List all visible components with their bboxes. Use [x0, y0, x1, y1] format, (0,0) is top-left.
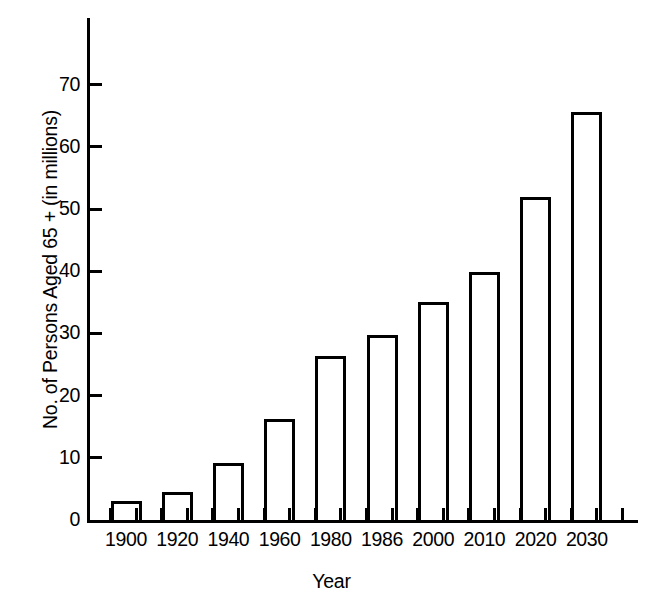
x-tick-mark: [570, 508, 573, 520]
x-tick-mark: [621, 508, 624, 520]
y-tick-mark: [90, 394, 102, 397]
bar: [315, 356, 346, 520]
bar: [264, 419, 295, 520]
y-tick-label: 50: [34, 199, 80, 219]
bar-chart: No. of Persons Aged 65 + (in millions) 0…: [0, 0, 663, 607]
x-tick-mark: [467, 508, 470, 520]
x-tick-mark: [135, 508, 138, 520]
x-tick-mark: [237, 508, 240, 520]
x-axis-line: [87, 520, 638, 523]
y-tick-label: 0: [34, 510, 80, 530]
x-axis-title: Year: [0, 570, 663, 593]
y-tick-mark: [90, 208, 102, 211]
y-tick-mark: [90, 145, 102, 148]
x-tick-mark: [314, 508, 317, 520]
x-tick-mark: [211, 508, 214, 520]
bar: [520, 197, 551, 520]
y-tick-label: 30: [34, 323, 80, 343]
bar: [571, 112, 602, 520]
x-tick-mark: [288, 508, 291, 520]
y-tick-label: 60: [34, 137, 80, 157]
y-tick-label: 10: [34, 448, 80, 468]
bar: [418, 302, 449, 520]
x-tick-label: 2030: [552, 528, 622, 551]
y-tick-mark: [90, 456, 102, 459]
x-tick-mark: [186, 508, 189, 520]
y-tick-label: 40: [34, 261, 80, 281]
x-tick-mark: [544, 508, 547, 520]
x-tick-mark: [160, 508, 163, 520]
y-tick-mark: [90, 270, 102, 273]
x-tick-mark: [442, 508, 445, 520]
x-tick-mark: [519, 508, 522, 520]
bar: [469, 272, 500, 520]
y-tick-mark: [90, 83, 102, 86]
x-tick-mark: [416, 508, 419, 520]
x-tick-mark: [595, 508, 598, 520]
x-tick-mark: [391, 508, 394, 520]
y-tick-mark: [90, 332, 102, 335]
bar: [367, 335, 398, 520]
x-tick-mark: [109, 508, 112, 520]
x-tick-mark: [493, 508, 496, 520]
x-tick-mark: [365, 508, 368, 520]
x-tick-mark: [263, 508, 266, 520]
y-tick-label: 70: [34, 75, 80, 95]
y-tick-label: 20: [34, 386, 80, 406]
x-tick-mark: [339, 508, 342, 520]
